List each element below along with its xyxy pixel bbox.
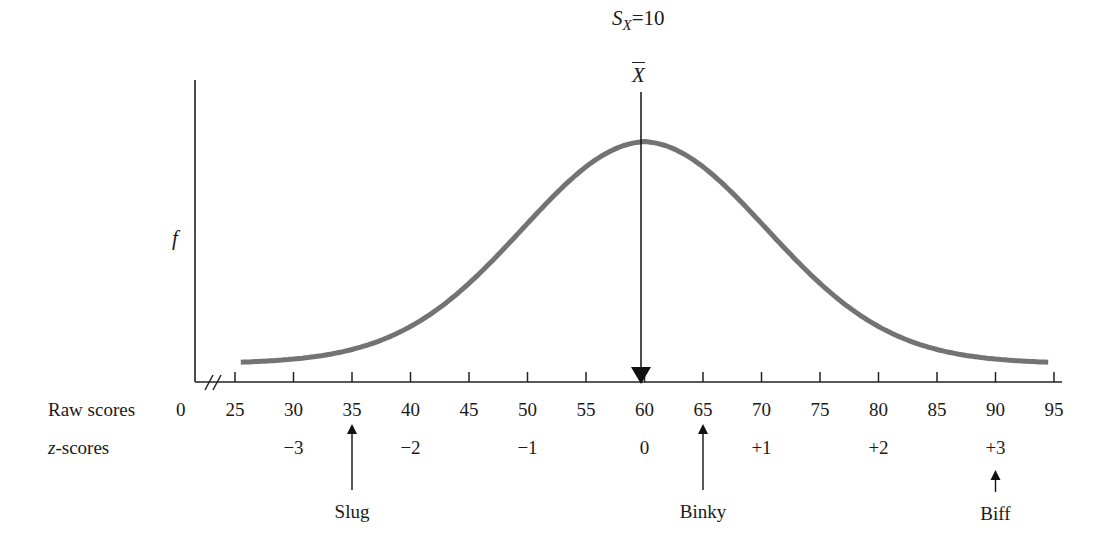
sd-annotation: SX=10 (612, 8, 665, 33)
raw-tick-label: 90 (986, 400, 1005, 419)
raw-tick-label: 80 (869, 400, 888, 419)
y-axis-label: f (172, 228, 178, 249)
marker-arrows (347, 424, 1001, 492)
marker-label-slug: Slug (335, 502, 370, 521)
raw-tick-label: 30 (284, 400, 303, 419)
raw-zero-label: 0 (176, 400, 186, 419)
z-tick-label: +3 (985, 438, 1005, 457)
marker-label-binky: Binky (680, 502, 726, 521)
raw-tick-label: 65 (694, 400, 713, 419)
raw-tick-label: 45 (460, 400, 479, 419)
raw-scores-label: Raw scores (48, 400, 135, 419)
z-tick-label: 0 (640, 438, 650, 457)
raw-tick-label: 40 (401, 400, 420, 419)
raw-tick-label: 70 (752, 400, 771, 419)
raw-tick-label: 55 (577, 400, 596, 419)
marker-arrow-icon (698, 424, 708, 434)
marker-arrow-icon (347, 424, 357, 434)
marker-arrow-icon (991, 470, 1001, 480)
raw-tick-label: 75 (811, 400, 830, 419)
marker-label-biff: Biff (980, 504, 1010, 523)
raw-tick-label: 50 (518, 400, 537, 419)
mean-annotation: X (632, 62, 645, 86)
z-tick-label: +1 (751, 438, 771, 457)
z-tick-label: −3 (283, 438, 303, 457)
raw-tick-label: 85 (928, 400, 947, 419)
z-scores-label: z-scores (48, 438, 109, 457)
raw-tick-label: 25 (226, 400, 245, 419)
normal-curve (241, 142, 1048, 363)
z-tick-label: −1 (517, 438, 537, 457)
normal-curve-chart (0, 0, 1113, 550)
raw-tick-label: 35 (343, 400, 362, 419)
raw-tick-label: 95 (1045, 400, 1064, 419)
raw-tick-label: 60 (635, 400, 654, 419)
z-tick-label: +2 (868, 438, 888, 457)
z-tick-label: −2 (400, 438, 420, 457)
